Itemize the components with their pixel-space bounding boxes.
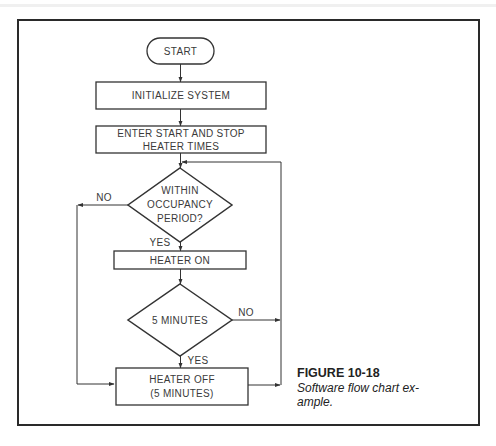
occupancy-no-label: NO xyxy=(96,192,112,203)
figure-number: FIGURE 10-18 xyxy=(297,366,467,381)
occupancy-label-3: PERIOD? xyxy=(157,213,203,224)
initialize-label: INITIALIZE SYSTEM xyxy=(132,90,230,101)
five-minutes-label: 5 MINUTES xyxy=(152,315,208,326)
enter-times-label-2: HEATER TIMES xyxy=(143,141,220,152)
caption-text-1: Software flow chart ex- xyxy=(297,381,467,395)
enter-times-label-1: ENTER START AND STOP xyxy=(117,128,245,139)
heater-off-label-2: (5 MINUTES) xyxy=(150,388,213,399)
caption-text-2: ample. xyxy=(297,395,467,409)
five-minutes-yes-label: YES xyxy=(188,355,209,366)
five-minutes-no-label: NO xyxy=(238,307,254,318)
start-label: START xyxy=(164,46,197,57)
heater-off-label-1: HEATER OFF xyxy=(149,374,215,385)
occupancy-label-2: OCCUPANCY xyxy=(147,199,213,210)
figure-caption: FIGURE 10-18 Software flow chart ex- amp… xyxy=(297,366,467,409)
occupancy-yes-label: YES xyxy=(150,237,171,248)
occupancy-label-1: WITHIN xyxy=(161,185,198,196)
heater-on-label: HEATER ON xyxy=(150,255,210,266)
